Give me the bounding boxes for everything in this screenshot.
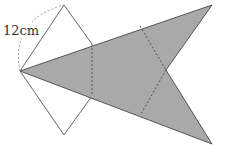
shaded-region <box>20 5 212 144</box>
measurement-label: 12cm <box>3 23 39 38</box>
geometry-diagram: 12cm <box>0 0 227 154</box>
